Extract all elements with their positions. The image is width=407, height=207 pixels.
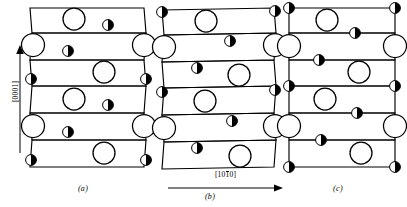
large-open-atom	[316, 9, 338, 31]
small-half-filled-atom	[390, 3, 401, 14]
large-open-atom	[153, 36, 176, 59]
small-half-filled-atom	[390, 81, 401, 92]
horizontal-axis-label-overbar: 1	[226, 170, 230, 179]
small-half-filled-atom	[284, 81, 295, 92]
small-half-filled-atom	[103, 20, 114, 31]
small-half-filled-atom	[157, 87, 168, 98]
small-half-filled-atom	[192, 63, 203, 74]
large-open-atom	[228, 64, 250, 86]
panel-b	[150, 0, 280, 175]
small-half-filled-atom	[284, 162, 295, 173]
small-half-filled-atom	[284, 3, 295, 14]
small-half-filled-atom	[350, 28, 361, 39]
small-half-filled-atom	[227, 116, 238, 127]
small-half-filled-atom	[157, 7, 168, 18]
large-open-atom	[22, 34, 45, 57]
large-open-atom	[194, 90, 216, 112]
small-half-filled-atom	[26, 74, 37, 85]
large-open-atom	[314, 88, 336, 110]
caption-b: (b)	[190, 192, 230, 201]
panel-c	[277, 0, 407, 175]
large-open-atom	[195, 10, 217, 32]
large-open-atom	[93, 61, 115, 83]
small-half-filled-atom	[103, 100, 114, 111]
caption-c: (c)	[318, 184, 358, 193]
small-half-filled-atom	[63, 127, 74, 138]
large-open-atom	[63, 8, 85, 30]
horizontal-axis-label-pre: [10	[215, 170, 226, 179]
small-half-filled-atom	[63, 46, 74, 57]
large-open-atom	[229, 145, 251, 167]
horizontal-axis-label: [1010]	[168, 170, 283, 179]
large-open-atom	[278, 115, 301, 138]
horizontal-axis-label-post: 0]	[229, 170, 236, 179]
small-half-filled-atom	[390, 162, 401, 173]
large-open-atom	[384, 35, 407, 58]
small-half-filled-atom	[225, 36, 236, 47]
large-open-atom	[63, 88, 85, 110]
vertical-axis-label: [0001]	[11, 68, 20, 116]
large-open-atom	[93, 142, 115, 164]
large-open-atom	[22, 115, 45, 138]
small-half-filled-atom	[192, 143, 203, 154]
small-half-filled-atom	[316, 135, 327, 146]
large-open-atom	[278, 35, 301, 58]
small-half-filled-atom	[314, 55, 325, 66]
large-open-atom	[348, 61, 370, 83]
small-half-filled-atom	[26, 155, 37, 166]
large-open-atom	[153, 117, 176, 140]
large-open-atom	[384, 115, 407, 138]
large-open-atom	[350, 142, 372, 164]
caption-a: (a)	[63, 184, 103, 193]
small-half-filled-atom	[352, 108, 363, 119]
panel-a	[22, 0, 152, 175]
